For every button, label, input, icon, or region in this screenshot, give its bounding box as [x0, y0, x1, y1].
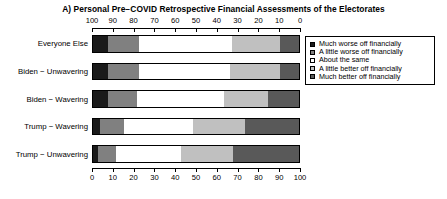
bar-segment[interactable] [108, 64, 139, 80]
bar-segment[interactable] [100, 119, 124, 135]
bar-segment[interactable] [139, 36, 233, 52]
bottom-axis-tick [154, 168, 155, 172]
bottom-axis-tick-label: 70 [228, 173, 248, 182]
bar-track [92, 118, 300, 136]
bar-row[interactable] [92, 118, 300, 136]
top-axis-tick-label: 30 [228, 16, 248, 25]
bar-segment[interactable] [193, 119, 245, 135]
bottom-axis-tick-label: 90 [269, 173, 289, 182]
bottom-axis-tick-label: 60 [207, 173, 227, 182]
bar-segment[interactable] [116, 146, 182, 162]
category-label: Trump − Wavering [0, 122, 88, 131]
bottom-axis-tick [175, 168, 176, 172]
legend-swatch-icon [310, 74, 315, 79]
legend-label: Much better off financially [319, 73, 400, 81]
bar-track [92, 63, 300, 81]
bar-segment[interactable] [224, 91, 268, 107]
bottom-axis-tick [238, 168, 239, 172]
bar-segment[interactable] [98, 146, 116, 162]
top-axis-tick-label: 60 [165, 16, 185, 25]
bar-row[interactable] [92, 63, 300, 81]
bottom-axis-tick [279, 168, 280, 172]
bar-segment[interactable] [93, 91, 108, 107]
bottom-axis-tick-label: 100 [290, 173, 310, 182]
top-axis-tick-label: 0 [290, 16, 310, 25]
bottom-axis-tick [300, 168, 301, 172]
top-axis-tick [300, 28, 301, 32]
bottom-axis-tick [134, 168, 135, 172]
plot-area [92, 30, 300, 168]
category-label: Biden − Unwavering [0, 67, 88, 76]
bottom-axis-tick [258, 168, 259, 172]
bar-segment[interactable] [245, 119, 300, 135]
bottom-axis-tick [196, 168, 197, 172]
top-axis-tick-label: 80 [124, 16, 144, 25]
top-axis-tick-label: 90 [103, 16, 123, 25]
bar-row[interactable] [92, 90, 300, 108]
bar-track [92, 90, 300, 108]
bar-segment[interactable] [93, 119, 100, 135]
bottom-axis-tick [113, 168, 114, 172]
top-axis-tick-label: 50 [186, 16, 206, 25]
legend-swatch-icon [310, 58, 315, 63]
legend-swatch-icon [310, 66, 315, 71]
bar-segment[interactable] [108, 36, 139, 52]
bottom-axis-tick [217, 168, 218, 172]
bar-segment[interactable] [93, 36, 108, 52]
top-axis-tick-label: 20 [248, 16, 268, 25]
bar-track [92, 145, 300, 163]
top-axis-tick-label: 10 [269, 16, 289, 25]
bottom-axis-tick-label: 20 [124, 173, 144, 182]
legend-swatch-icon [310, 42, 315, 47]
bar-track [92, 35, 300, 53]
chart-legend: Much worse off financiallyA little worse… [305, 36, 435, 85]
bar-segment[interactable] [268, 91, 300, 107]
bar-segment[interactable] [280, 64, 300, 80]
legend-swatch-icon [310, 50, 315, 55]
bottom-axis: 0102030405060708090100 [92, 168, 300, 172]
bar-segment[interactable] [232, 36, 280, 52]
category-label: Trump − Unwavering [0, 150, 88, 159]
top-axis-tick-label: 100 [82, 16, 102, 25]
top-axis-tick-label: 40 [207, 16, 227, 25]
bottom-axis-tick-label: 40 [165, 173, 185, 182]
chart-title: A) Personal Pre−COVID Retrospective Fina… [0, 4, 447, 14]
bar-segment[interactable] [108, 91, 137, 107]
bar-segment[interactable] [139, 64, 231, 80]
bar-row[interactable] [92, 145, 300, 163]
bar-segment[interactable] [137, 91, 224, 107]
bottom-axis-tick-label: 30 [144, 173, 164, 182]
category-label: Biden − Wavering [0, 95, 88, 104]
stacked-bar-chart: A) Personal Pre−COVID Retrospective Fina… [0, 0, 447, 199]
legend-item[interactable]: Much better off financially [310, 73, 430, 81]
bottom-axis-tick-label: 0 [82, 173, 102, 182]
bottom-axis-tick-label: 10 [103, 173, 123, 182]
category-label: Everyone Else [0, 39, 88, 48]
bar-segment[interactable] [230, 64, 280, 80]
bar-row[interactable] [92, 35, 300, 53]
bottom-axis-tick-label: 50 [186, 173, 206, 182]
bottom-axis-tick-label: 80 [248, 173, 268, 182]
category-axis-labels: Everyone ElseBiden − UnwaveringBiden − W… [0, 30, 88, 168]
top-axis-tick-label: 70 [144, 16, 164, 25]
bar-segment[interactable] [181, 146, 233, 162]
bar-segment[interactable] [233, 146, 300, 162]
bar-segment[interactable] [93, 64, 108, 80]
bar-segment[interactable] [124, 119, 193, 135]
bar-segment[interactable] [280, 36, 300, 52]
bottom-axis-tick [92, 168, 93, 172]
